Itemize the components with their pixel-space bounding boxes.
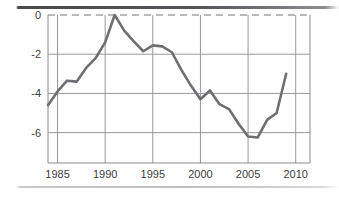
y-tick-label--4: -4 [31,87,41,99]
chart-figure: 0-2-4-6 198519901995200020052010 [0,0,339,206]
series-value [48,15,286,138]
data-series-line [48,15,286,138]
axis-frame [48,15,310,163]
x-tick-label-1985: 1985 [45,168,69,180]
x-tick-label-1995: 1995 [141,168,165,180]
x-tick-label-2010: 2010 [283,168,307,180]
y-tick-label-0: 0 [35,9,41,21]
y-tick-label--6: -6 [31,127,41,139]
x-tick-label-2005: 2005 [236,168,260,180]
x-axis-tick-labels: 198519901995200020052010 [45,168,308,180]
vertical-gridlines [58,15,296,163]
y-tick-label--2: -2 [31,48,41,60]
line-chart-plot: 0-2-4-6 198519901995200020052010 [0,0,339,206]
y-axis-tick-labels: 0-2-4-6 [31,9,41,139]
x-tick-label-1990: 1990 [93,168,117,180]
x-tick-label-2000: 2000 [188,168,212,180]
